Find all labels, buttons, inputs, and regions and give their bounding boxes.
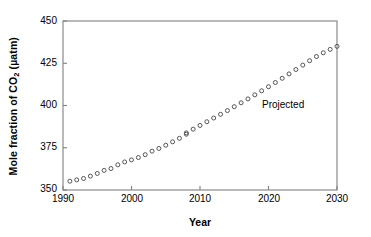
series-projected-points: [184, 44, 339, 135]
plot-area: [0, 0, 371, 237]
chart-figure: Mole fraction of CO2 (µatm) 450 425 400 …: [0, 0, 371, 237]
projected-annotation: Projected: [262, 99, 304, 110]
series-observed-points: [68, 132, 188, 183]
